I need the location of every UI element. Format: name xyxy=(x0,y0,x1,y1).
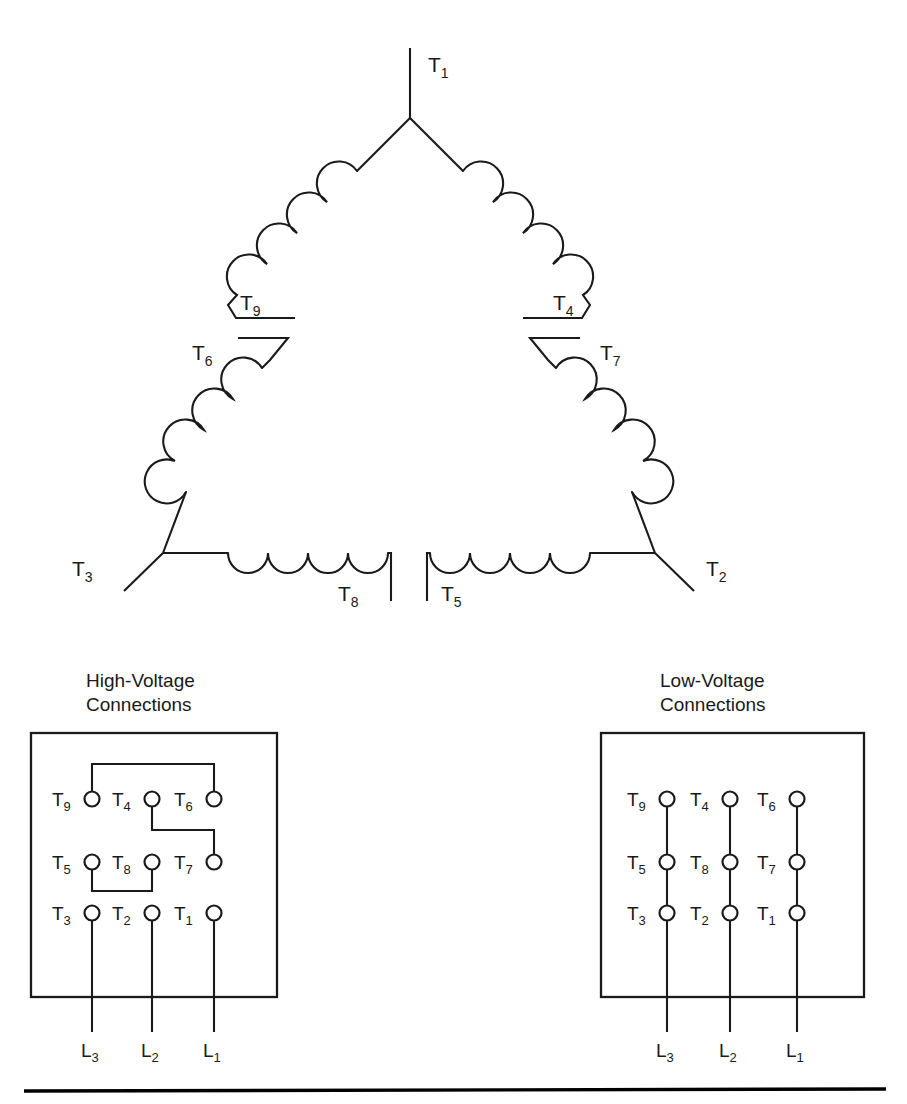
high-voltage-title-line1: High-Voltage xyxy=(86,670,195,691)
lv-line-label-l3: L3 xyxy=(656,1040,674,1065)
t6-lead-wire xyxy=(238,338,288,368)
t5-lead-wire xyxy=(427,553,430,601)
coil-left-upper xyxy=(227,161,357,305)
delta-label-t3: T3 xyxy=(72,557,93,585)
delta-label-t6: T6 xyxy=(192,341,213,369)
coil-right-upper xyxy=(463,161,593,305)
delta-label-t1: T1 xyxy=(428,53,449,81)
hv-label-t5: T5 xyxy=(52,852,71,877)
hv-label-t1: T1 xyxy=(174,903,193,928)
delta-label-t5: T5 xyxy=(441,582,462,610)
hv-label-t9: T9 xyxy=(52,789,71,814)
lv-terminal-t4[interactable] xyxy=(723,792,738,807)
hv-terminal-t9[interactable] xyxy=(85,792,100,807)
t3-lead-wire xyxy=(124,553,163,591)
lv-terminal-t2[interactable] xyxy=(723,906,738,921)
lv-label-t7: T7 xyxy=(757,852,776,877)
lv-label-t1: T1 xyxy=(757,903,776,928)
delta-label-t9: T9 xyxy=(240,291,261,319)
hv-terminal-t5[interactable] xyxy=(85,855,100,870)
t7-lead-wire xyxy=(530,338,580,368)
hv-terminal-t2[interactable] xyxy=(145,906,160,921)
lv-terminal-t3[interactable] xyxy=(660,906,675,921)
lv-terminal-t8[interactable] xyxy=(723,855,738,870)
hv-terminal-t3[interactable] xyxy=(85,906,100,921)
lv-label-t9: T9 xyxy=(627,789,646,814)
lv-label-t3: T3 xyxy=(627,903,646,928)
high-voltage-title-line2: Connections xyxy=(86,694,192,715)
lv-label-t6: T6 xyxy=(757,789,776,814)
hv-line-label-l2: L2 xyxy=(141,1040,159,1065)
hv-label-t7: T7 xyxy=(174,852,193,877)
hv-jumper-t4-t7[interactable] xyxy=(152,806,214,855)
hv-terminal-t4[interactable] xyxy=(145,792,160,807)
delta-label-t7: T7 xyxy=(600,341,621,369)
hv-label-t3: T3 xyxy=(52,903,71,928)
t8-lead-wire xyxy=(388,553,391,601)
lv-label-t5: T5 xyxy=(627,852,646,877)
lv-terminal-t5[interactable] xyxy=(660,855,675,870)
apex-right-wire xyxy=(410,118,463,171)
hv-terminal-t7[interactable] xyxy=(207,855,222,870)
lv-label-t8: T8 xyxy=(690,852,709,877)
page-bottom-rule xyxy=(24,1089,886,1091)
delta-label-t8: T8 xyxy=(338,582,359,610)
lv-line-label-l1: L1 xyxy=(786,1040,804,1065)
delta-label-t4: T4 xyxy=(553,291,574,319)
lv-terminal-t6[interactable] xyxy=(790,792,805,807)
hv-terminal-t6[interactable] xyxy=(207,792,222,807)
lv-line-label-l2: L2 xyxy=(719,1040,737,1065)
motor-winding-figure: T1 T9 T6 T3 xyxy=(0,0,907,1104)
t2-lead-wire xyxy=(655,553,694,591)
delta-winding-diagram: T1 T9 T6 T3 xyxy=(72,48,727,610)
hv-jumper-t9-t6[interactable] xyxy=(92,764,214,792)
lv-terminal-t7[interactable] xyxy=(790,855,805,870)
coil-right-lower xyxy=(556,358,673,504)
low-voltage-title-line2: Connections xyxy=(660,694,766,715)
coil-bottom-left xyxy=(228,553,388,573)
hv-label-t6: T6 xyxy=(174,789,193,814)
lv-label-t2: T2 xyxy=(690,903,709,928)
hv-terminal-t8[interactable] xyxy=(145,855,160,870)
apex-left-wire xyxy=(357,118,410,171)
delta-label-t2: T2 xyxy=(706,557,727,585)
hv-label-t2: T2 xyxy=(112,903,131,928)
t9-lead-wire xyxy=(228,305,295,318)
lv-label-t4: T4 xyxy=(690,789,709,814)
coil-bottom-right xyxy=(430,553,590,573)
hv-label-t4: T4 xyxy=(112,789,131,814)
hv-terminal-t1[interactable] xyxy=(207,906,222,921)
lv-terminal-t1[interactable] xyxy=(790,906,805,921)
lv-terminal-t9[interactable] xyxy=(660,792,675,807)
hv-line-label-l1: L1 xyxy=(203,1040,221,1065)
low-voltage-panel: Low-Voltage Connections T9 T4 T6 T5 T8 xyxy=(601,670,864,1065)
low-voltage-title-line1: Low-Voltage xyxy=(660,670,765,691)
hv-line-label-l3: L3 xyxy=(81,1040,99,1065)
hv-label-t8: T8 xyxy=(112,852,131,877)
high-voltage-panel: High-Voltage Connections T9 T4 T6 T5 xyxy=(31,670,277,1065)
coil-left-lower xyxy=(145,358,262,504)
